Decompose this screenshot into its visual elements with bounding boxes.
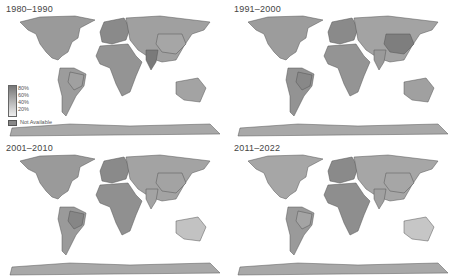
region-eu xyxy=(328,18,358,44)
region-india xyxy=(146,189,158,209)
map-panel-1980-1990: 1980–1990 80% 60% 40% 20% Not Available xyxy=(0,0,228,138)
region-af xyxy=(96,44,142,96)
region-aus xyxy=(176,217,206,241)
region-eu xyxy=(100,18,130,44)
legend-tick: 40% xyxy=(18,99,29,105)
na-swatch xyxy=(8,120,17,126)
world-map xyxy=(228,0,456,138)
region-af xyxy=(324,44,370,96)
world-map xyxy=(228,139,456,277)
region-ant xyxy=(238,124,448,136)
region-ant xyxy=(10,263,220,275)
world-map xyxy=(0,0,228,138)
region-india xyxy=(374,189,386,209)
map-panel-1991-2000: 1991–2000 xyxy=(228,0,456,138)
region-af xyxy=(324,183,370,235)
region-india xyxy=(374,50,386,70)
region-eu xyxy=(328,157,358,183)
map-panel-2001-2010: 2001–2010 xyxy=(0,139,228,277)
region-na xyxy=(248,155,323,199)
region-af xyxy=(96,183,142,235)
legend-not-available: Not Available xyxy=(8,119,52,126)
region-india xyxy=(146,50,158,70)
legend-tick: 60% xyxy=(18,92,29,98)
region-na xyxy=(248,16,323,60)
legend-colorbar xyxy=(8,85,17,117)
region-na xyxy=(20,16,95,60)
region-ant xyxy=(238,263,448,275)
region-aus xyxy=(176,78,206,102)
map-panel-2011-2022: 2011–2022 xyxy=(228,139,456,277)
region-aus xyxy=(404,78,434,102)
legend-tick: 80% xyxy=(18,85,29,91)
region-ant xyxy=(10,124,220,136)
region-eu xyxy=(100,157,130,183)
legend-tick: 20% xyxy=(18,106,29,112)
world-map xyxy=(0,139,228,277)
region-aus xyxy=(404,217,434,241)
region-na xyxy=(20,155,95,199)
